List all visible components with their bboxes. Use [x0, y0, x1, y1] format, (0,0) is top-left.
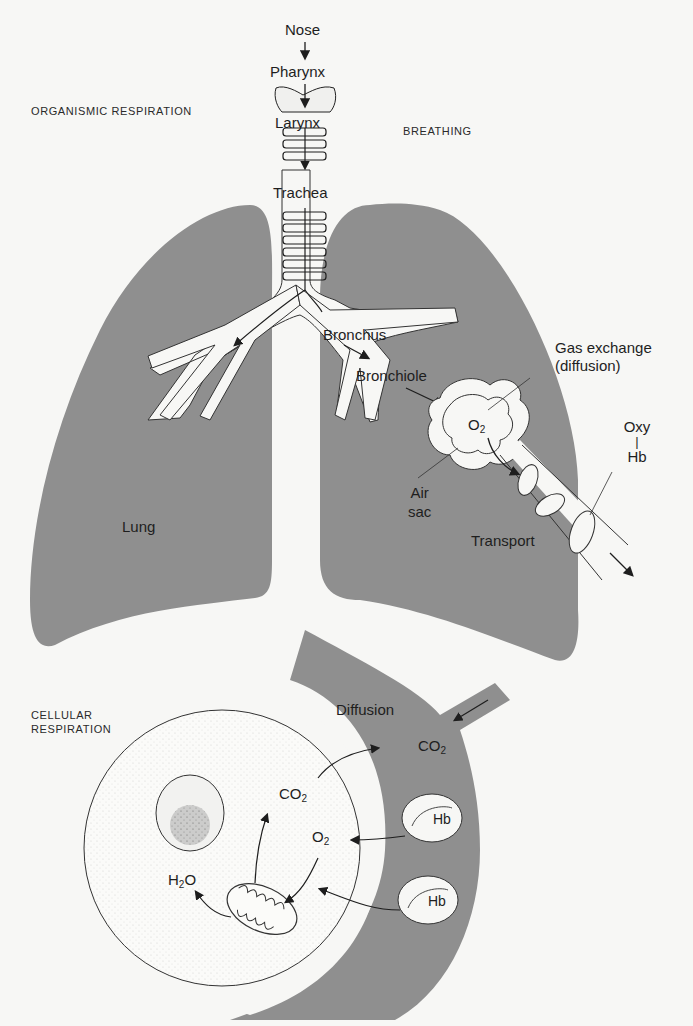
- label-lung: Lung: [122, 519, 155, 534]
- label-air-sac-line1: Air: [408, 485, 431, 500]
- label-co2-cell: CO2: [279, 786, 307, 804]
- o2-cell-text: O: [312, 828, 324, 845]
- bond-line: |: [617, 435, 657, 448]
- label-gas-exchange-line2: (diffusion): [555, 358, 652, 373]
- label-oxy: Oxy: [617, 419, 657, 434]
- left-lung: [30, 205, 272, 646]
- label-diffusion: Diffusion: [336, 702, 394, 717]
- co2-vessel-text: CO: [418, 737, 441, 754]
- caption-cellular-line2: RESPIRATION: [31, 723, 111, 737]
- label-trachea: Trachea: [273, 185, 327, 200]
- caption-breathing: BREATHING: [403, 125, 472, 139]
- label-nose: Nose: [285, 22, 320, 37]
- caption-cellular-line1: CELLULAR: [31, 709, 111, 723]
- label-o2-cell: O2: [312, 829, 329, 847]
- co2-cell-subscript: 2: [302, 793, 308, 804]
- label-bronchus: Bronchus: [323, 327, 386, 342]
- o2-cell-subscript: 2: [324, 836, 330, 847]
- h2o-o-text: O: [184, 871, 196, 888]
- co2-cell-text: CO: [279, 785, 302, 802]
- co2-vessel-subscript: 2: [441, 745, 447, 756]
- label-transport: Transport: [471, 533, 535, 548]
- label-bronchiole: Bronchiole: [356, 368, 427, 383]
- label-h2o: H2O: [168, 872, 196, 890]
- label-hb-top: Hb: [433, 812, 451, 826]
- label-gas-exchange-line1: Gas exchange: [555, 340, 652, 355]
- label-larynx: Larynx: [275, 115, 320, 130]
- label-gas-exchange: Gas exchange (diffusion): [555, 340, 652, 373]
- label-pharynx: Pharynx: [270, 64, 325, 79]
- h2o-h-text: H: [168, 871, 179, 888]
- label-oxy-hb: Oxy | Hb: [617, 419, 657, 464]
- label-hb: Hb: [617, 449, 657, 464]
- label-air-sac: Air sac: [408, 485, 431, 519]
- label-o2-alveolus: O2: [468, 417, 485, 435]
- label-hb-bottom: Hb: [428, 894, 446, 908]
- o2-subscript: 2: [480, 424, 486, 435]
- label-co2-vessel: CO2: [418, 738, 446, 756]
- rbc-top: [402, 794, 462, 842]
- caption-organismic-respiration: ORGANISMIC RESPIRATION: [31, 105, 192, 119]
- caption-cellular-respiration: CELLULAR RESPIRATION: [31, 709, 111, 737]
- respiration-diagram: [0, 0, 693, 1026]
- o2-text: O: [468, 416, 480, 433]
- label-air-sac-line2: sac: [408, 504, 431, 519]
